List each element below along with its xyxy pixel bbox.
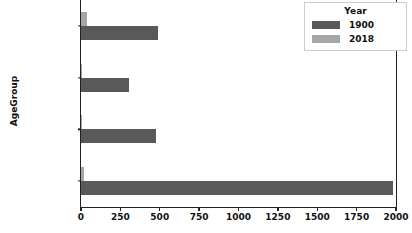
x-tick-label: 250 (111, 212, 130, 222)
x-tick-mark (238, 207, 239, 211)
bar (81, 12, 87, 26)
x-tick-label: 500 (150, 212, 169, 222)
x-tick-mark (120, 207, 121, 211)
y-axis-label: AgeGroup (9, 51, 19, 151)
x-tick-label: 750 (190, 212, 209, 222)
bar (81, 129, 156, 143)
x-tick-mark (277, 207, 278, 211)
bar (81, 181, 393, 195)
legend-item-2018: 2018 (312, 32, 399, 46)
x-tick-label: 1250 (265, 212, 290, 222)
x-tick-mark (356, 207, 357, 211)
bar (81, 167, 84, 181)
legend-item-1900: 1900 (312, 18, 399, 32)
x-tick-mark (395, 207, 396, 211)
legend-label-1900: 1900 (349, 20, 374, 30)
x-tick-mark (317, 207, 318, 211)
bar (81, 64, 82, 78)
x-tick-label: 1500 (305, 212, 330, 222)
x-tick-mark (80, 207, 81, 211)
x-tick-mark (198, 207, 199, 211)
x-tick-label: 1000 (226, 212, 251, 222)
x-tick-label: 2000 (383, 212, 408, 222)
legend-title: Year (312, 6, 399, 16)
legend: Year 1900 2018 (304, 2, 407, 51)
bar-chart-figure: AgeGroup 01-04 Years05-09 Years10-14 Yea… (0, 0, 412, 233)
bar (81, 78, 129, 92)
legend-swatch-2018 (312, 35, 340, 43)
bar (81, 115, 82, 129)
x-tick-mark (159, 207, 160, 211)
legend-label-2018: 2018 (349, 34, 374, 44)
bar (81, 26, 158, 40)
legend-swatch-1900 (312, 21, 340, 29)
x-tick-label: 1750 (344, 212, 369, 222)
x-tick-label: 0 (78, 212, 84, 222)
